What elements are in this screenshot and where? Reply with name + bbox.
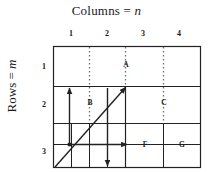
cell-label-b: B [83, 98, 97, 107]
grid-dotted-guides [90, 47, 164, 123]
cell-label-c: C [157, 98, 171, 107]
cell-label-f: F [138, 140, 152, 149]
cell-label-g: G [175, 140, 189, 149]
junction-dot [67, 142, 71, 146]
matrix-grid-diagram: Columns = n Rows = m 1 2 3 4 1 2 3 [0, 0, 213, 172]
grid-horizontal-lines [54, 87, 201, 145]
cell-label-a: A [119, 60, 133, 69]
